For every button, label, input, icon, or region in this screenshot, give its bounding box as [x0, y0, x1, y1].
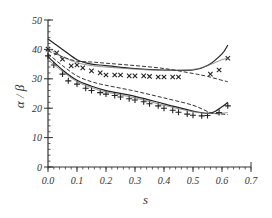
- plus-marker: [199, 113, 205, 119]
- series-lower-model-solid: [48, 57, 228, 114]
- y-tick-label: 10: [32, 132, 42, 143]
- x-tick-label: 0.7: [245, 175, 259, 186]
- x-marker: [176, 75, 180, 79]
- plus-marker: [184, 111, 190, 117]
- x-marker: [147, 74, 151, 78]
- x-marker: [98, 71, 102, 75]
- x-tick-label: 0.3: [129, 175, 142, 186]
- x-tick-label: 0.2: [100, 175, 113, 186]
- x-marker: [127, 74, 131, 78]
- series-upper-data-: [46, 47, 230, 79]
- plot-series: [45, 39, 231, 119]
- plus-marker: [190, 112, 196, 118]
- x-tick-label: 0.1: [71, 175, 84, 186]
- x-marker: [162, 75, 166, 79]
- x-marker: [208, 72, 212, 76]
- x-tick-label: 0.5: [187, 175, 200, 186]
- y-tick-label: 50: [32, 15, 42, 26]
- x-marker: [81, 66, 85, 70]
- x-marker: [217, 68, 221, 72]
- x-tick-label: 0.6: [216, 175, 229, 186]
- solid-curve: [48, 57, 228, 114]
- x-marker: [156, 75, 160, 79]
- x-tick-label: 0.4: [158, 175, 171, 186]
- y-tick-label: 30: [31, 73, 42, 84]
- x-marker: [69, 64, 73, 68]
- x-marker: [133, 74, 137, 78]
- y-axis-label: α / β: [12, 84, 27, 108]
- x-marker: [142, 74, 146, 78]
- line-chart: 0.00.10.20.30.40.50.60.701020304050sα / …: [0, 0, 272, 218]
- y-tick-label: 20: [32, 103, 42, 114]
- x-marker: [171, 75, 175, 79]
- chart-container: 0.00.10.20.30.40.50.60.701020304050sα / …: [0, 0, 272, 218]
- x-tick-label: 0.0: [42, 175, 55, 186]
- y-tick-label: 0: [37, 162, 42, 173]
- plus-marker: [176, 109, 182, 115]
- x-axis-label: s: [143, 192, 148, 207]
- series-lower-data-: [45, 53, 231, 119]
- x-marker: [104, 73, 108, 77]
- x-marker: [89, 69, 93, 73]
- x-marker: [118, 73, 122, 77]
- y-tick-label: 40: [32, 44, 42, 55]
- x-marker: [113, 73, 117, 77]
- plus-marker: [65, 78, 71, 84]
- axes: [44, 20, 251, 172]
